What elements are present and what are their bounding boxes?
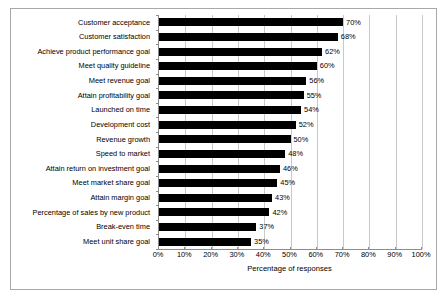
bar bbox=[159, 18, 343, 26]
bar-row: 50% bbox=[159, 132, 422, 147]
value-axis-tick-labels: 0%10%20%30%40%50%60%70%80%90%100% bbox=[158, 251, 421, 262]
x-axis-title: Percentage of responses bbox=[158, 265, 421, 273]
bar-row: 68% bbox=[159, 30, 422, 45]
bar bbox=[159, 150, 285, 158]
category-label: Percentage of sales by new product bbox=[11, 205, 154, 220]
category-label: Attain margin goal bbox=[11, 191, 154, 206]
value-tick-label: 100% bbox=[412, 251, 431, 258]
bar-value-label: 56% bbox=[309, 77, 324, 84]
bar-value-label: 43% bbox=[275, 194, 290, 201]
category-label: Launched on time bbox=[11, 103, 154, 118]
category-label: Development cost bbox=[11, 117, 154, 132]
category-label: Meet unit share goal bbox=[11, 234, 154, 249]
bar bbox=[159, 135, 291, 143]
value-tick-label: 90% bbox=[387, 251, 402, 258]
value-tick-label: 10% bbox=[177, 251, 192, 258]
bar-row: 48% bbox=[159, 147, 422, 162]
bar-row: 62% bbox=[159, 44, 422, 59]
category-label: Attain profitability goal bbox=[11, 88, 154, 103]
value-tick-label: 70% bbox=[335, 251, 350, 258]
bar bbox=[159, 179, 277, 187]
bar-row: 37% bbox=[159, 220, 422, 235]
bar bbox=[159, 223, 256, 231]
bar-value-label: 48% bbox=[288, 150, 303, 157]
bar bbox=[159, 121, 296, 129]
bar bbox=[159, 91, 304, 99]
value-tick-label: 0% bbox=[153, 251, 164, 258]
plot-area: 70%68%62%60%56%55%54%52%50%48%46%45%43%4… bbox=[158, 15, 422, 250]
bar-value-label: 68% bbox=[341, 33, 356, 40]
bar-row: 43% bbox=[159, 191, 422, 206]
bar-value-label: 45% bbox=[280, 179, 295, 186]
value-tick-label: 20% bbox=[203, 251, 218, 258]
value-tick-label: 40% bbox=[256, 251, 271, 258]
bar-row: 35% bbox=[159, 234, 422, 249]
bar-value-label: 55% bbox=[307, 92, 322, 99]
bar bbox=[159, 208, 269, 216]
bar-value-label: 54% bbox=[304, 106, 319, 113]
value-tick-label: 30% bbox=[229, 251, 244, 258]
bar bbox=[159, 194, 272, 202]
chart-plot-wrapper: Customer acceptanceCustomer satisfaction… bbox=[11, 9, 436, 289]
category-label: Meet quality guideline bbox=[11, 59, 154, 74]
bar bbox=[159, 48, 322, 56]
gridline bbox=[422, 15, 423, 249]
category-label: Achieve product performance goal bbox=[11, 44, 154, 59]
bar-row: 56% bbox=[159, 74, 422, 89]
bar bbox=[159, 77, 306, 85]
bar-series: 70%68%62%60%56%55%54%52%50%48%46%45%43%4… bbox=[159, 15, 422, 249]
bar bbox=[159, 106, 301, 114]
bar-row: 42% bbox=[159, 205, 422, 220]
category-label: Break-even time bbox=[11, 220, 154, 235]
value-tick-label: 60% bbox=[308, 251, 323, 258]
bar-value-label: 46% bbox=[283, 165, 298, 172]
value-tick-label: 50% bbox=[282, 251, 297, 258]
category-label: Revenue growth bbox=[11, 132, 154, 147]
bar-value-label: 42% bbox=[272, 209, 287, 216]
category-label: Customer satisfaction bbox=[11, 30, 154, 45]
bar-row: 54% bbox=[159, 103, 422, 118]
bar-value-label: 52% bbox=[299, 121, 314, 128]
bar-row: 45% bbox=[159, 176, 422, 191]
bar bbox=[159, 165, 280, 173]
bar-row: 70% bbox=[159, 15, 422, 30]
bar-value-label: 35% bbox=[254, 238, 269, 245]
bar-row: 46% bbox=[159, 161, 422, 176]
bar-row: 52% bbox=[159, 117, 422, 132]
bar-value-label: 70% bbox=[346, 19, 361, 26]
value-tick-label: 80% bbox=[361, 251, 376, 258]
category-label: Speed to market bbox=[11, 147, 154, 162]
bar bbox=[159, 238, 251, 246]
bar-row: 60% bbox=[159, 59, 422, 74]
category-label: Attain return on investment goal bbox=[11, 161, 154, 176]
category-label: Meet market share goal bbox=[11, 176, 154, 191]
bar-value-label: 50% bbox=[294, 136, 309, 143]
bar bbox=[159, 33, 338, 41]
category-label: Customer acceptance bbox=[11, 15, 154, 30]
chart-frame: Customer acceptanceCustomer satisfaction… bbox=[10, 8, 437, 290]
category-axis-labels: Customer acceptanceCustomer satisfaction… bbox=[11, 15, 154, 249]
bar-value-label: 62% bbox=[325, 48, 340, 55]
bar-value-label: 60% bbox=[320, 62, 335, 69]
bar-row: 55% bbox=[159, 88, 422, 103]
bar-value-label: 37% bbox=[259, 223, 274, 230]
bar bbox=[159, 62, 317, 70]
category-label: Meet revenue goal bbox=[11, 74, 154, 89]
